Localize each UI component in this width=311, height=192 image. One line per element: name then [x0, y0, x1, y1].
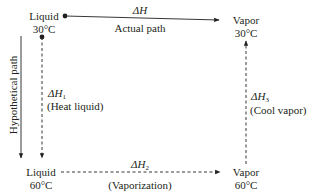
- cool-vapor-label: (Cool vapor): [250, 104, 307, 116]
- state-liquid-30-phase: Liquid: [28, 10, 60, 22]
- heat-liquid-label: (Heat liquid): [47, 100, 104, 112]
- actual-delta-h-label: ΔH: [120, 4, 160, 16]
- state-vapor-30-phase: Vapor: [229, 14, 263, 26]
- hypothetical-path-label: Hypothetical path: [7, 45, 19, 145]
- actual-path-label: Actual path: [105, 22, 175, 34]
- state-vapor-30-temp: 30°C: [229, 27, 263, 39]
- delta-h3-label: ΔH3: [251, 90, 269, 102]
- state-liquid-60-phase: Liquid: [24, 166, 58, 178]
- heat-liquid-arrow: [40, 35, 45, 158]
- delta-h2-label: ΔH2: [122, 158, 158, 170]
- state-vapor-60-temp: 60°C: [229, 179, 263, 191]
- state-liquid-30-temp: 30°C: [28, 23, 60, 35]
- state-vapor-60-phase: Vapor: [229, 166, 263, 178]
- vaporization-label: (Vaporization): [100, 179, 180, 191]
- delta-h1-label: ΔH1: [48, 87, 66, 99]
- state-liquid-60-temp: 60°C: [24, 179, 58, 191]
